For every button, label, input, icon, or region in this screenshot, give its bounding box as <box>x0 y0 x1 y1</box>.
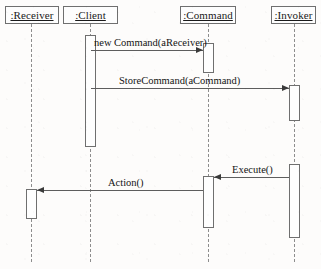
message-label-new-command: new Command(aReceiver) <box>94 38 207 49</box>
message-line-execute <box>214 177 289 178</box>
uml-sequence-diagram: :Receiver :Client :Command :Invoker new … <box>0 0 321 269</box>
participant-client[interactable]: :Client <box>63 6 118 24</box>
message-line-new-command <box>91 50 203 51</box>
activation-bar-invoker-execute <box>289 164 300 238</box>
activation-bar-receiver-action <box>26 189 37 219</box>
message-label-execute: Execute() <box>232 165 273 176</box>
message-label-action: Action() <box>108 178 144 189</box>
lifeline-receiver <box>31 24 32 262</box>
participant-label: :Invoker <box>274 10 312 21</box>
participant-label: :Receiver <box>10 10 53 21</box>
message-line-store-command <box>91 88 289 89</box>
participant-label: :Client <box>75 10 106 21</box>
activation-bar-command-execute <box>203 176 214 228</box>
arrowhead-icon-execute <box>214 174 221 180</box>
activation-bar-invoker-store <box>289 85 300 121</box>
message-label-store-command: StoreCommand(aCommand) <box>119 76 240 87</box>
arrowhead-icon-action <box>37 187 44 193</box>
message-line-action <box>37 190 203 191</box>
arrowhead-icon-store-command <box>282 85 289 91</box>
arrowhead-icon-new-command <box>196 47 203 53</box>
participant-receiver[interactable]: :Receiver <box>5 6 59 24</box>
participant-invoker[interactable]: :Invoker <box>271 6 316 24</box>
activation-bar-client <box>85 35 96 147</box>
participant-command[interactable]: :Command <box>180 6 236 24</box>
participant-label: :Command <box>183 10 233 21</box>
